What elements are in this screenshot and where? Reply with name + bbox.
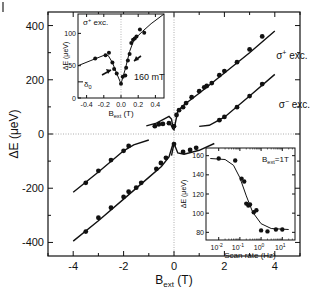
data-point bbox=[189, 95, 194, 100]
inset2-data-point bbox=[265, 229, 269, 233]
inset-x-tick-label: -0.4 bbox=[81, 101, 93, 108]
data-point bbox=[217, 118, 222, 123]
data-point bbox=[109, 158, 114, 163]
fit-line bbox=[73, 145, 173, 241]
inset2-x-tick-label: 100 bbox=[254, 242, 265, 251]
inset2-x-tick-label: 10-1 bbox=[232, 242, 244, 251]
data-point bbox=[164, 155, 169, 160]
inset-field-y-label: ΔE (μeV) bbox=[62, 42, 70, 71]
inset2-y-tick-label: 140 bbox=[192, 171, 204, 178]
inset-scan-x-label: Scan rate (Hz) bbox=[224, 251, 276, 260]
data-point bbox=[177, 108, 182, 113]
data-point bbox=[121, 194, 126, 199]
inset-field-plot: -0.4-0.20.00.20.4050100δ0σ+ exc.160 mTΔE… bbox=[62, 14, 165, 119]
inset-data-point bbox=[115, 71, 119, 75]
data-point bbox=[181, 105, 186, 110]
inset2-data-point bbox=[254, 208, 258, 212]
inset-x-tick-label: 0.0 bbox=[116, 101, 126, 108]
inset-data-point bbox=[107, 51, 111, 55]
data-point bbox=[126, 144, 131, 149]
y-tick-label: 400 bbox=[26, 20, 44, 32]
series-annotation: σ− exc. bbox=[279, 98, 310, 110]
inset2-data-point bbox=[242, 179, 246, 183]
chart: -4-20244002000-200-400 σ+ exc.σ− exc. -0… bbox=[0, 0, 310, 294]
data-point bbox=[158, 161, 163, 166]
data-point bbox=[260, 82, 265, 87]
data-point bbox=[167, 121, 172, 126]
inset2-data-point bbox=[274, 227, 278, 231]
main-annotations: σ+ exc.σ− exc. bbox=[276, 49, 310, 110]
inset2-x-tick-label: 10-2 bbox=[211, 242, 223, 251]
inset-data-point bbox=[142, 31, 146, 35]
inset-data-point bbox=[119, 82, 123, 86]
inset-x-tick-label: 0.2 bbox=[133, 101, 143, 108]
inset-x-tick-label: 0.4 bbox=[151, 101, 161, 108]
data-point bbox=[222, 69, 227, 74]
y-tick-label: 0 bbox=[38, 128, 44, 140]
inset2-x-tick-label: 101 bbox=[275, 242, 286, 251]
inset2-data-point bbox=[233, 158, 237, 162]
data-point bbox=[139, 180, 144, 185]
inset-field-x-label: Bext (T) bbox=[108, 109, 134, 119]
data-point bbox=[83, 229, 88, 234]
inset2-y-tick-label: 100 bbox=[192, 210, 204, 217]
data-point bbox=[247, 47, 252, 52]
data-point bbox=[204, 84, 209, 89]
arrow-annotation: 160 mT bbox=[134, 72, 165, 82]
data-point bbox=[121, 148, 126, 153]
data-point bbox=[161, 122, 166, 127]
data-point bbox=[194, 145, 199, 150]
x-tick-label: 4 bbox=[272, 260, 278, 272]
data-point bbox=[235, 105, 240, 110]
inset2-data-point bbox=[248, 202, 252, 206]
x-tick-label: 0 bbox=[171, 260, 177, 272]
data-point bbox=[126, 189, 131, 194]
y-tick-label: -400 bbox=[22, 236, 44, 248]
main-y-axis-label: ΔE (μeV) bbox=[7, 110, 21, 159]
inset-data-point bbox=[128, 52, 132, 56]
inset-data-point bbox=[138, 28, 142, 32]
inset-data-point bbox=[93, 57, 97, 61]
x-tick-label: -4 bbox=[68, 260, 78, 272]
data-point bbox=[174, 113, 179, 118]
inset-data-point bbox=[112, 67, 116, 71]
inset-scan-plot: 10-210-110010180100120140160Bext=1TΔE (μ… bbox=[180, 148, 295, 260]
data-point bbox=[197, 89, 202, 94]
fit-line bbox=[170, 31, 275, 130]
inset2-y-tick-label: 160 bbox=[192, 152, 204, 159]
inset-data-point bbox=[134, 35, 138, 39]
inset-y-tick-label: 0 bbox=[72, 95, 76, 102]
inset-scan-y-label: ΔE (μeV) bbox=[180, 180, 188, 209]
data-point bbox=[209, 81, 214, 86]
data-point bbox=[247, 94, 252, 99]
data-point bbox=[154, 167, 159, 172]
inset-data-point bbox=[110, 60, 114, 64]
inset-data-point bbox=[126, 59, 130, 63]
data-point bbox=[260, 34, 265, 39]
data-point bbox=[134, 185, 139, 190]
x-tick-label: 2 bbox=[221, 260, 227, 272]
data-point bbox=[222, 115, 227, 120]
data-point bbox=[96, 168, 101, 173]
inset-field-annotation: σ+ exc. bbox=[83, 17, 108, 27]
inset-y-tick-label: 100 bbox=[64, 30, 76, 37]
data-point bbox=[184, 101, 189, 106]
y-tick-label: -200 bbox=[22, 182, 44, 194]
data-point bbox=[181, 149, 186, 154]
inset2-y-tick-label: 80 bbox=[196, 229, 204, 236]
inset2-data-point bbox=[217, 156, 221, 160]
series-annotation: σ+ exc. bbox=[276, 49, 307, 61]
inset2-y-tick-label: 120 bbox=[192, 191, 204, 198]
inset2-data-point bbox=[259, 228, 263, 232]
data-point bbox=[96, 215, 101, 220]
data-point bbox=[217, 73, 222, 78]
inset-data-point bbox=[104, 53, 108, 57]
data-point bbox=[109, 205, 114, 210]
inset-scan-annotation: Bext=1T bbox=[262, 155, 289, 165]
inset-x-tick-label: -0.2 bbox=[98, 101, 110, 108]
y-tick-label: 200 bbox=[26, 74, 44, 86]
x-tick-label: -2 bbox=[119, 260, 129, 272]
inset-y-tick-label: 50 bbox=[68, 62, 76, 69]
inset-data-point bbox=[124, 66, 128, 70]
data-point bbox=[235, 60, 240, 65]
